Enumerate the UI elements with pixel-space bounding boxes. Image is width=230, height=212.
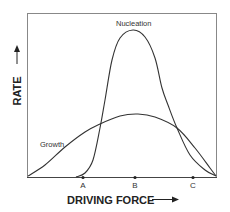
y-axis-arrow-icon xyxy=(14,45,20,64)
growth-label: Growth xyxy=(40,140,64,149)
y-axis-title: RATE xyxy=(11,76,23,105)
x-axis-title: DRIVING FORCE xyxy=(67,194,154,206)
tick-a-marker xyxy=(81,176,84,179)
tick-c-marker xyxy=(191,176,194,179)
tick-b-label: B xyxy=(132,181,137,190)
nucleation-curve xyxy=(76,30,216,177)
x-axis-arrow-icon xyxy=(152,197,179,203)
tick-c-label: C xyxy=(190,181,196,190)
rate-vs-driving-force-diagram: A B C Nucleation Growth DRIVING FORCE RA… xyxy=(0,0,230,212)
nucleation-label: Nucleation xyxy=(116,19,151,28)
tick-a-label: A xyxy=(80,181,86,190)
tick-b-marker xyxy=(133,176,136,179)
